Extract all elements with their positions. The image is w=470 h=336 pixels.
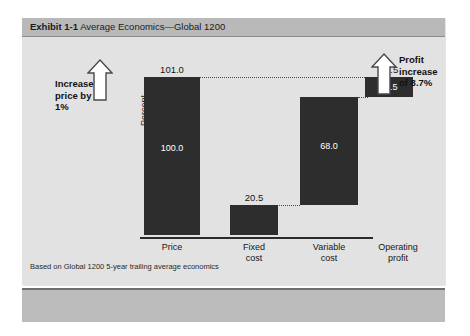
bar-variable-cost-value: 68.0 xyxy=(300,141,358,151)
exhibit-title: Exhibit 1-1 Average Economics—Global 120… xyxy=(30,21,225,32)
bar-price-top-label: 101.0 xyxy=(144,64,200,75)
bar-variable-cost: 68.0 xyxy=(300,97,358,205)
bar-price-value: 100.0 xyxy=(144,143,200,153)
x-axis-label-price: Price xyxy=(144,242,200,253)
connector-price-to-profit xyxy=(200,77,365,78)
bar-fixed-cost-top-label: 20.5 xyxy=(226,192,282,203)
annotation-profit-increase-line1: Profit xyxy=(399,54,449,66)
x-axis-line xyxy=(140,237,373,239)
connector-variable-to-profit xyxy=(358,97,368,98)
bottom-strip xyxy=(22,288,445,322)
annotation-increase-price-line3: 1% xyxy=(55,101,109,113)
x-axis-label-price-line1: Price xyxy=(144,242,200,253)
x-axis-label-fixed-cost: Fixed cost xyxy=(226,242,282,264)
exhibit-title-text: Average Economics—Global 1200 xyxy=(80,21,225,32)
x-axis-label-operating-profit-line1: Operating xyxy=(362,242,434,253)
bar-fixed-cost xyxy=(230,205,278,235)
exhibit-number: Exhibit 1-1 xyxy=(30,21,78,32)
x-axis-label-fixed-cost-line1: Fixed xyxy=(226,242,282,253)
chart-footnote: Based on Global 1200 5-year trailing ave… xyxy=(30,262,219,271)
x-axis-label-operating-profit: Operating profit xyxy=(362,242,434,264)
chart-plot-area: Percent 100.0 101.0 20.5 68.0 1 xyxy=(140,64,373,239)
annotation-profit-increase: Profit increase of 8.7% xyxy=(399,54,449,89)
annotation-profit-increase-line2: increase xyxy=(399,66,449,78)
x-axis-label-variable-cost-line1: Variable xyxy=(295,242,363,253)
x-axis-label-variable-cost: Variable cost xyxy=(295,242,363,264)
annotation-profit-increase-line3: of 8.7% xyxy=(399,77,449,89)
x-axis-label-fixed-cost-line2: cost xyxy=(226,253,282,264)
x-axis-label-variable-cost-line2: cost xyxy=(295,253,363,264)
x-axis-label-operating-profit-line2: profit xyxy=(362,253,434,264)
bar-price: 100.0 xyxy=(144,77,200,235)
up-arrow-icon-right xyxy=(371,52,397,96)
exhibit-screenshot: Exhibit 1-1 Average Economics—Global 120… xyxy=(0,0,470,336)
exhibit-title-bar: Exhibit 1-1 Average Economics—Global 120… xyxy=(22,18,445,37)
exhibit-panel: Exhibit 1-1 Average Economics—Global 120… xyxy=(22,18,445,285)
up-arrow-icon-left xyxy=(87,58,113,102)
